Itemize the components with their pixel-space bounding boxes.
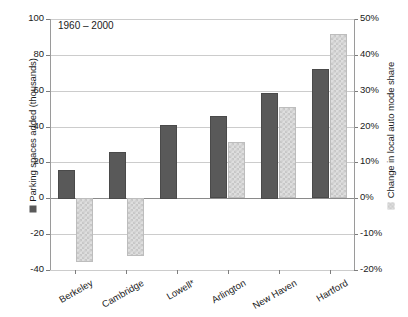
y-axis-left-tick-label: 20 xyxy=(4,155,44,166)
x-axis-tick xyxy=(75,270,76,274)
grid-line xyxy=(50,127,355,128)
zero-line xyxy=(50,198,355,199)
y-axis-right-tick-label: 30% xyxy=(360,84,402,95)
y-axis-right-spine xyxy=(354,19,355,270)
bar-auto-mode-share xyxy=(127,198,144,256)
bar-parking-spaces xyxy=(58,170,75,199)
y-axis-left-tick-label: -20 xyxy=(4,227,44,238)
grid-line xyxy=(50,55,355,56)
y-axis-left-tick-label: 60 xyxy=(4,84,44,95)
y-axis-right-tick-label: -10% xyxy=(360,227,402,238)
x-axis-tick xyxy=(177,270,178,274)
grid-line xyxy=(50,270,355,271)
x-axis-tick xyxy=(126,270,127,274)
y-axis-left-tick-label: 100 xyxy=(4,12,44,23)
bar-parking-spaces xyxy=(210,116,227,198)
y-axis-left-tick-label: -40 xyxy=(4,263,44,274)
x-axis-tick xyxy=(279,270,280,274)
bar-auto-mode-share xyxy=(76,198,93,262)
y-axis-left-tick-label: 0 xyxy=(4,191,44,202)
y-axis-right-tick-label: -20% xyxy=(360,263,402,274)
grid-line xyxy=(50,91,355,92)
legend-swatch-light-icon xyxy=(388,202,395,209)
y-axis-left-tick xyxy=(46,270,50,271)
bar-parking-spaces xyxy=(312,69,329,198)
y-axis-right-tick-label: 0% xyxy=(360,191,402,202)
y-axis-right-tick xyxy=(354,270,358,271)
y-axis-left-tick-label: 80 xyxy=(4,48,44,59)
y-axis-right-tick-label: 20% xyxy=(360,120,402,131)
y-axis-left-tick-label: 40 xyxy=(4,120,44,131)
y-axis-right-tick-label: 40% xyxy=(360,48,402,59)
y-axis-right-tick-label: 10% xyxy=(360,155,402,166)
bar-auto-mode-share xyxy=(330,34,347,198)
bar-auto-mode-share xyxy=(228,142,245,198)
date-range-annotation: 1960 – 2000 xyxy=(58,20,114,31)
bar-auto-mode-share xyxy=(279,107,296,198)
grouped-bar-chart: Parking spaces added (thousands) Change … xyxy=(0,0,408,317)
plot-area: 100806040200-20-4050%40%30%20%10%0%-10%-… xyxy=(50,19,355,270)
bar-parking-spaces xyxy=(160,125,177,199)
bar-parking-spaces xyxy=(261,93,278,199)
x-axis-tick xyxy=(330,270,331,274)
y-axis-right-tick-label: 50% xyxy=(360,12,402,23)
y-axis-left-spine xyxy=(50,19,51,270)
bar-parking-spaces xyxy=(109,152,126,199)
grid-line xyxy=(50,234,355,235)
legend-swatch-dark-icon xyxy=(30,206,37,213)
x-axis-tick xyxy=(228,270,229,274)
grid-line xyxy=(50,162,355,163)
